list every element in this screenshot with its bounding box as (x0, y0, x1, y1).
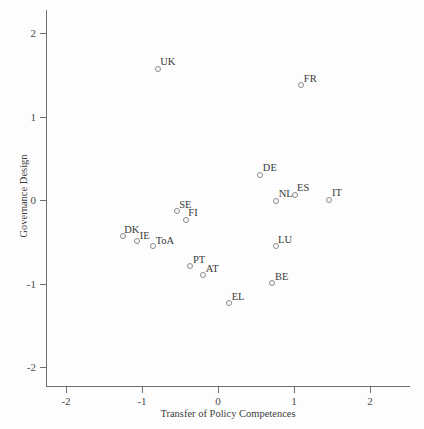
y-axis-tick-label: -1 (8, 279, 36, 290)
x-axis-tick-label: 2 (355, 396, 385, 407)
data-point-label: AT (206, 263, 219, 274)
x-axis-tick (370, 387, 371, 393)
scatter-plot-figure: -2-1012 -2-1012 UKFRDEESITNLSEFIDKIEToAL… (0, 0, 424, 429)
data-point-label: IE (140, 230, 150, 241)
data-point-label: FR (304, 73, 317, 84)
plot-area: UKFRDEESITNLSEFIDKIEToALUPTATBEEL (46, 10, 410, 386)
y-axis-tick-label: -2 (8, 362, 36, 373)
x-axis-title: Transfer of Policy Competences (46, 408, 410, 420)
data-point-label: DK (124, 224, 139, 235)
x-axis-tick (142, 387, 143, 393)
x-axis-tick (294, 387, 295, 393)
data-point-label: FI (188, 207, 197, 218)
data-point-label: EL (232, 291, 245, 302)
y-axis-tick-label: 2 (8, 28, 36, 39)
x-axis-tick (66, 387, 67, 393)
y-axis-tick-label: 1 (8, 112, 36, 123)
data-point-label: DE (263, 162, 277, 173)
data-point-label: ToA (156, 235, 175, 246)
data-point-label: BE (275, 271, 288, 282)
data-point-label: PT (193, 254, 205, 265)
data-point-label: ES (297, 182, 309, 193)
data-point-label: NL (279, 188, 293, 199)
data-point-label: UK (160, 56, 175, 67)
x-axis-tick (218, 387, 219, 393)
x-axis-tick-label: 0 (203, 396, 233, 407)
x-axis-tick-label: -2 (51, 396, 81, 407)
data-point-label: LU (278, 234, 292, 245)
x-axis-tick-label: 1 (279, 396, 309, 407)
y-axis-title: Governance Design (18, 126, 30, 266)
data-point-label: IT (332, 187, 342, 198)
x-axis-line (46, 386, 410, 387)
x-axis-tick-label: -1 (127, 396, 157, 407)
